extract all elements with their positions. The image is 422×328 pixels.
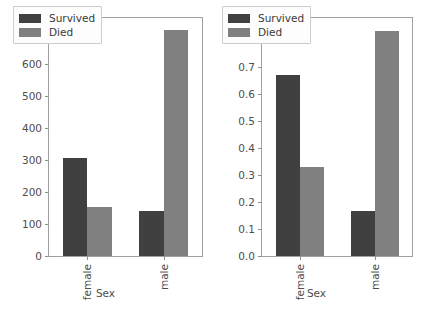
y-tick-mark [45,128,49,129]
x-tick-label: male [375,238,387,264]
legend-swatch-survived [228,14,250,23]
legend-swatch-died [228,28,250,37]
bars-container-counts [49,18,202,256]
x-axis-label-counts: Sex [0,287,211,299]
legend-proportions[interactable]: Survived Died [222,6,311,44]
y-tick-label: 200 [22,186,42,198]
y-tick-label: 500 [22,90,42,102]
x-tick-label: female [300,228,312,264]
legend-item-survived: Survived [19,11,95,25]
y-tick-mark [258,202,262,203]
y-tick-label: 400 [22,122,42,134]
y-tick-mark [258,148,262,149]
y-tick-label: 0.5 [238,115,255,127]
legend-counts[interactable]: Survived Died [13,6,102,44]
legend-item-died: Died [19,25,95,39]
legend-label-survived: Survived [49,12,95,24]
bar-male-survived[interactable] [139,211,163,256]
chart-panel-counts: 0100200300400500600700 femalemale Sex Su… [0,0,211,328]
bar-male-died[interactable] [164,30,188,256]
plot-area-proportions: 0.00.10.20.30.40.50.60.70.8 femalemale [261,17,413,257]
legend-swatch-survived [19,14,41,23]
y-tick-label: 0.2 [238,196,255,208]
y-tick-mark [45,224,49,225]
y-tick-label: 300 [22,154,42,166]
y-tick-label: 0 [35,250,42,262]
y-tick-mark [45,256,49,257]
y-tick-label: 100 [22,218,42,230]
y-tick-label: 0.6 [238,88,255,100]
y-tick-mark [45,96,49,97]
y-tick-mark [258,175,262,176]
y-tick-label: 0.3 [238,169,255,181]
legend-label-died: Died [49,26,73,38]
bar-male-survived[interactable] [351,211,375,256]
chart-panel-proportions: 0.00.10.20.30.40.50.60.70.8 femalemale S… [211,0,422,328]
legend-label-died: Died [258,26,282,38]
bar-male-died[interactable] [375,31,399,256]
y-tick-mark [258,229,262,230]
y-tick-label: 0.7 [238,61,255,73]
legend-item-died: Died [228,25,304,39]
legend-item-survived: Survived [228,11,304,25]
y-tick-label: 600 [22,58,42,70]
y-tick-mark [45,64,49,65]
y-tick-label: 0.0 [238,250,255,262]
plot-area-counts: 0100200300400500600700 femalemale [48,17,203,257]
x-tick-label: male [164,238,176,264]
y-tick-mark [258,67,262,68]
legend-label-survived: Survived [258,12,304,24]
y-tick-mark [258,94,262,95]
y-tick-mark [258,256,262,257]
bars-container-proportions [262,18,412,256]
y-tick-mark [258,121,262,122]
x-tick-label: female [87,228,99,264]
bar-female-survived[interactable] [276,75,300,256]
figure-canvas: 0100200300400500600700 femalemale Sex Su… [0,0,422,328]
y-tick-mark [45,192,49,193]
y-tick-label: 0.4 [238,142,255,154]
y-tick-mark [45,160,49,161]
y-tick-label: 0.1 [238,223,255,235]
bar-female-survived[interactable] [63,158,87,256]
legend-swatch-died [19,28,41,37]
x-axis-label-proportions: Sex [211,287,422,299]
